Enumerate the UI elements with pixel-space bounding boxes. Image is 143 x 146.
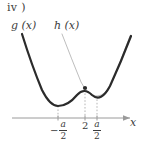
fraction-stack: a 2: [59, 120, 67, 141]
curve-label-g: g (x): [11, 20, 36, 31]
fraction-denominator: 2: [59, 131, 67, 141]
curve-label-h: h (x): [54, 20, 79, 31]
x-axis-label: x: [130, 117, 136, 128]
fraction-numerator: a: [93, 120, 100, 130]
fraction-denominator: 2: [93, 131, 101, 141]
fraction-numerator: a: [60, 120, 67, 130]
tick-label-neg-a-over-2: − a 2: [50, 120, 67, 141]
tick-label-a-over-2: a 2: [93, 120, 101, 141]
intersection-dot: [83, 86, 87, 90]
figure-container: iv ) g (x) h (x) x − a 2 2 a 2: [0, 0, 143, 146]
x-axis-arrow-icon: [123, 115, 130, 121]
fraction-stack: a 2: [93, 120, 101, 141]
minus-sign: −: [50, 125, 58, 136]
part-label: iv ): [7, 2, 26, 13]
tick-label-two: 2: [82, 121, 88, 131]
